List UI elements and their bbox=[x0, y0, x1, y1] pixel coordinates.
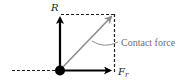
Fr-label: Fr bbox=[117, 66, 129, 79]
contact-point-dot bbox=[55, 66, 65, 76]
Fr-label-subscript: r bbox=[125, 71, 129, 79]
dashed-construction-lines bbox=[12, 14, 115, 72]
force-diagram: R Fr Contact force bbox=[0, 0, 194, 82]
contact-force-label: Contact force bbox=[121, 37, 176, 48]
contact-force-arrow bbox=[61, 17, 111, 69]
R-label: R bbox=[50, 2, 59, 13]
